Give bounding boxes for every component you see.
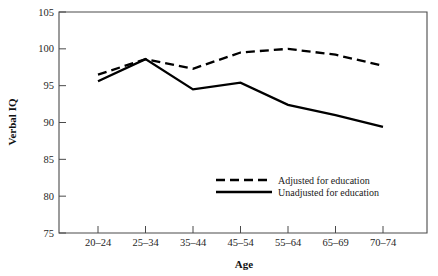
y-axis-title: Verbal IQ (6, 98, 18, 145)
y-tick-label: 95 (44, 80, 55, 91)
y-tick-label: 85 (44, 154, 55, 165)
x-tick-label: 70–74 (370, 237, 397, 248)
x-tick-label: 55–64 (275, 237, 302, 248)
y-tick-label: 80 (44, 191, 55, 202)
legend-label: Unadjusted for education (278, 187, 379, 198)
legend-label: Adjusted for education (278, 175, 370, 186)
y-tick-label: 100 (38, 43, 54, 54)
x-tick-label: 20–24 (85, 237, 112, 248)
chart-figure: 7580859095100105 20–2425–3435–4445–5455–… (0, 0, 438, 276)
y-tick-label: 90 (44, 117, 55, 128)
x-axis-title: Age (235, 258, 253, 270)
x-tick-label: 65–69 (322, 237, 348, 248)
y-tick-label: 105 (38, 7, 54, 18)
x-tick-label: 35–44 (180, 237, 207, 248)
x-tick-label: 25–34 (132, 237, 159, 248)
x-tick-label: 45–54 (227, 237, 254, 248)
y-tick-label: 75 (44, 228, 55, 239)
verbal-iq-by-age-line-chart: 7580859095100105 20–2425–3435–4445–5455–… (0, 0, 438, 276)
chart-background (0, 0, 438, 276)
